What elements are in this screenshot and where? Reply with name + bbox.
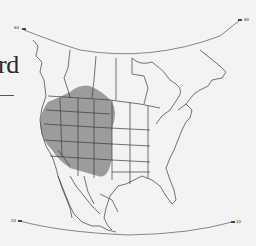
north-america-map [0, 0, 256, 246]
map-figure: rd [0, 0, 256, 246]
latitude-label-bottom-left: 20 [11, 218, 16, 223]
latitude-label-top-right: 60 [244, 17, 249, 22]
latitude-label-top-left: 60 [14, 25, 19, 30]
latitude-line-60 [24, 20, 240, 54]
latitude-line-20 [20, 221, 232, 235]
latitude-label-bottom-right: 20 [236, 219, 241, 224]
